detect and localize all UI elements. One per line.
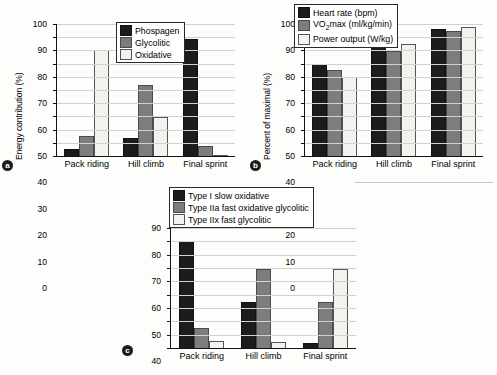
y-axis-tick-label: 100 bbox=[281, 24, 295, 25]
bar bbox=[79, 136, 94, 156]
bar bbox=[153, 117, 168, 156]
y-axis-tick: 80 bbox=[301, 50, 305, 51]
x-axis-labels-a: Pack ridingHill climbFinal sprint bbox=[57, 159, 235, 169]
y-axis-tick-label: 70 bbox=[37, 103, 47, 104]
panel-letter-a: a bbox=[2, 160, 13, 171]
x-axis-category-label: Pack riding bbox=[171, 351, 233, 361]
y-axis-tick-label: 90 bbox=[37, 50, 47, 51]
gridline bbox=[171, 268, 356, 269]
gridline bbox=[57, 116, 235, 117]
y-axis-tick: 60 bbox=[301, 77, 305, 78]
y-axis-tick: 50 bbox=[301, 90, 305, 91]
legend-label-type-iia: Type IIa fast oxidative glycolitic bbox=[188, 203, 309, 213]
legend-label-type-i: Type I slow oxidative bbox=[188, 191, 269, 201]
gridline bbox=[171, 295, 356, 296]
y-axis-tick-label: 40 bbox=[285, 182, 295, 183]
legend-swatch-vo2max bbox=[298, 20, 310, 31]
y-axis-tick-label: 70 bbox=[151, 281, 161, 282]
legend-swatch-power-output bbox=[298, 34, 310, 45]
y-axis-tick: 20 bbox=[53, 130, 57, 131]
y-axis-tick-label: 60 bbox=[285, 130, 295, 131]
legend-item-type-i: Type I slow oxidative bbox=[173, 190, 309, 201]
plot-area-c: Pack ridingHill climbFinal sprint 010203… bbox=[170, 228, 356, 349]
y-axis-tick: 30 bbox=[301, 116, 305, 117]
legend-swatch-type-i bbox=[173, 190, 185, 201]
y-axis-tick-label: 60 bbox=[37, 130, 47, 131]
x-axis-labels-c: Pack ridingHill climbFinal sprint bbox=[171, 351, 356, 361]
y-axis-tick-label: 80 bbox=[151, 255, 161, 256]
gridline bbox=[305, 130, 483, 131]
gridline bbox=[305, 90, 483, 91]
bar bbox=[213, 155, 228, 156]
legend-item-heart-rate: Heart rate (bpm) bbox=[298, 7, 393, 18]
legend-swatch-phospagen bbox=[120, 25, 132, 36]
chart-panel-c: c Pack ridingHill climbFinal sprint 0102… bbox=[120, 185, 400, 375]
footer-divider bbox=[355, 182, 493, 183]
gridline bbox=[171, 321, 356, 322]
x-axis-category-label: Hill climb bbox=[364, 159, 423, 169]
legend-swatch-glycolitic bbox=[120, 37, 132, 48]
gridline bbox=[305, 116, 483, 117]
x-axis-labels-b: Pack ridingHill climbFinal sprint bbox=[305, 159, 483, 169]
gridline bbox=[305, 77, 483, 78]
y-axis-tick-label: 90 bbox=[151, 228, 161, 229]
panel-letter-b: b bbox=[250, 160, 261, 171]
y-axis-tick: 80 bbox=[53, 50, 57, 51]
y-axis-tick: 70 bbox=[167, 255, 171, 256]
bar-groups-c bbox=[171, 228, 356, 348]
legend-label-heart-rate: Heart rate (bpm) bbox=[313, 8, 378, 18]
y-axis-tick: 40 bbox=[53, 103, 57, 104]
bar bbox=[194, 328, 209, 348]
legend-label-power-output: Power output (W/kg) bbox=[313, 34, 393, 44]
bar bbox=[271, 342, 286, 348]
legend-item-type-iix: Type IIx fast glycolitic bbox=[173, 214, 309, 225]
gridline bbox=[57, 90, 235, 91]
y-axis-tick-label: 70 bbox=[285, 103, 295, 104]
y-axis-tick-label: 0 bbox=[42, 288, 47, 289]
chart-panel-a: a Energy contribution (%) Pack ridingHil… bbox=[0, 0, 246, 185]
y-axis-tick: 40 bbox=[167, 295, 171, 296]
y-axis-tick: 90 bbox=[167, 228, 171, 229]
y-axis-tick: 40 bbox=[301, 103, 305, 104]
bar bbox=[431, 29, 446, 156]
gridline bbox=[171, 308, 356, 309]
x-axis-category-label: Hill climb bbox=[233, 351, 295, 361]
gridline bbox=[171, 281, 356, 282]
x-axis-category-label: Final sprint bbox=[176, 159, 235, 169]
y-axis-tick-label: 50 bbox=[285, 156, 295, 157]
y-axis-tick-label: 50 bbox=[151, 335, 161, 336]
legend-item-type-iia: Type IIa fast oxidative glycolitic bbox=[173, 202, 309, 213]
legend-item-glycolitic: Glycolitic bbox=[120, 37, 180, 48]
y-axis-label-b: Percent of maximal (%) bbox=[262, 73, 272, 160]
y-axis-tick: 70 bbox=[53, 64, 57, 65]
y-axis-tick: 50 bbox=[53, 90, 57, 91]
bar bbox=[209, 341, 224, 348]
bar bbox=[138, 85, 153, 156]
x-axis-category-label: Final sprint bbox=[294, 351, 356, 361]
x-axis-category-label: Pack riding bbox=[305, 159, 364, 169]
bar bbox=[183, 39, 198, 156]
y-axis-tick: 10 bbox=[53, 143, 57, 144]
y-axis-tick: 20 bbox=[167, 321, 171, 322]
y-axis-tick: 0 bbox=[301, 156, 305, 157]
y-axis-tick: 80 bbox=[167, 241, 171, 242]
y-axis-tick-label: 80 bbox=[285, 77, 295, 78]
legend-a: Phospagen Glycolitic Oxidative bbox=[116, 22, 185, 63]
bar bbox=[64, 149, 79, 156]
gridline bbox=[305, 50, 483, 51]
legend-label-vo2max: VO2max (ml/kg/min) bbox=[313, 19, 392, 33]
y-axis-tick: 60 bbox=[167, 268, 171, 269]
gridline bbox=[305, 143, 483, 144]
legend-item-phospagen: Phospagen bbox=[120, 25, 180, 36]
y-axis-tick: 10 bbox=[301, 143, 305, 144]
gridline bbox=[57, 64, 235, 65]
bar bbox=[198, 146, 213, 156]
y-axis-tick-label: 10 bbox=[37, 262, 47, 263]
gridline bbox=[57, 143, 235, 144]
legend-swatch-type-iix bbox=[173, 214, 185, 225]
bar bbox=[461, 27, 476, 156]
legend-swatch-type-iia bbox=[173, 202, 185, 213]
y-axis-tick-label: 40 bbox=[151, 361, 161, 362]
bar bbox=[303, 343, 318, 348]
y-axis-tick-label: 60 bbox=[151, 308, 161, 309]
